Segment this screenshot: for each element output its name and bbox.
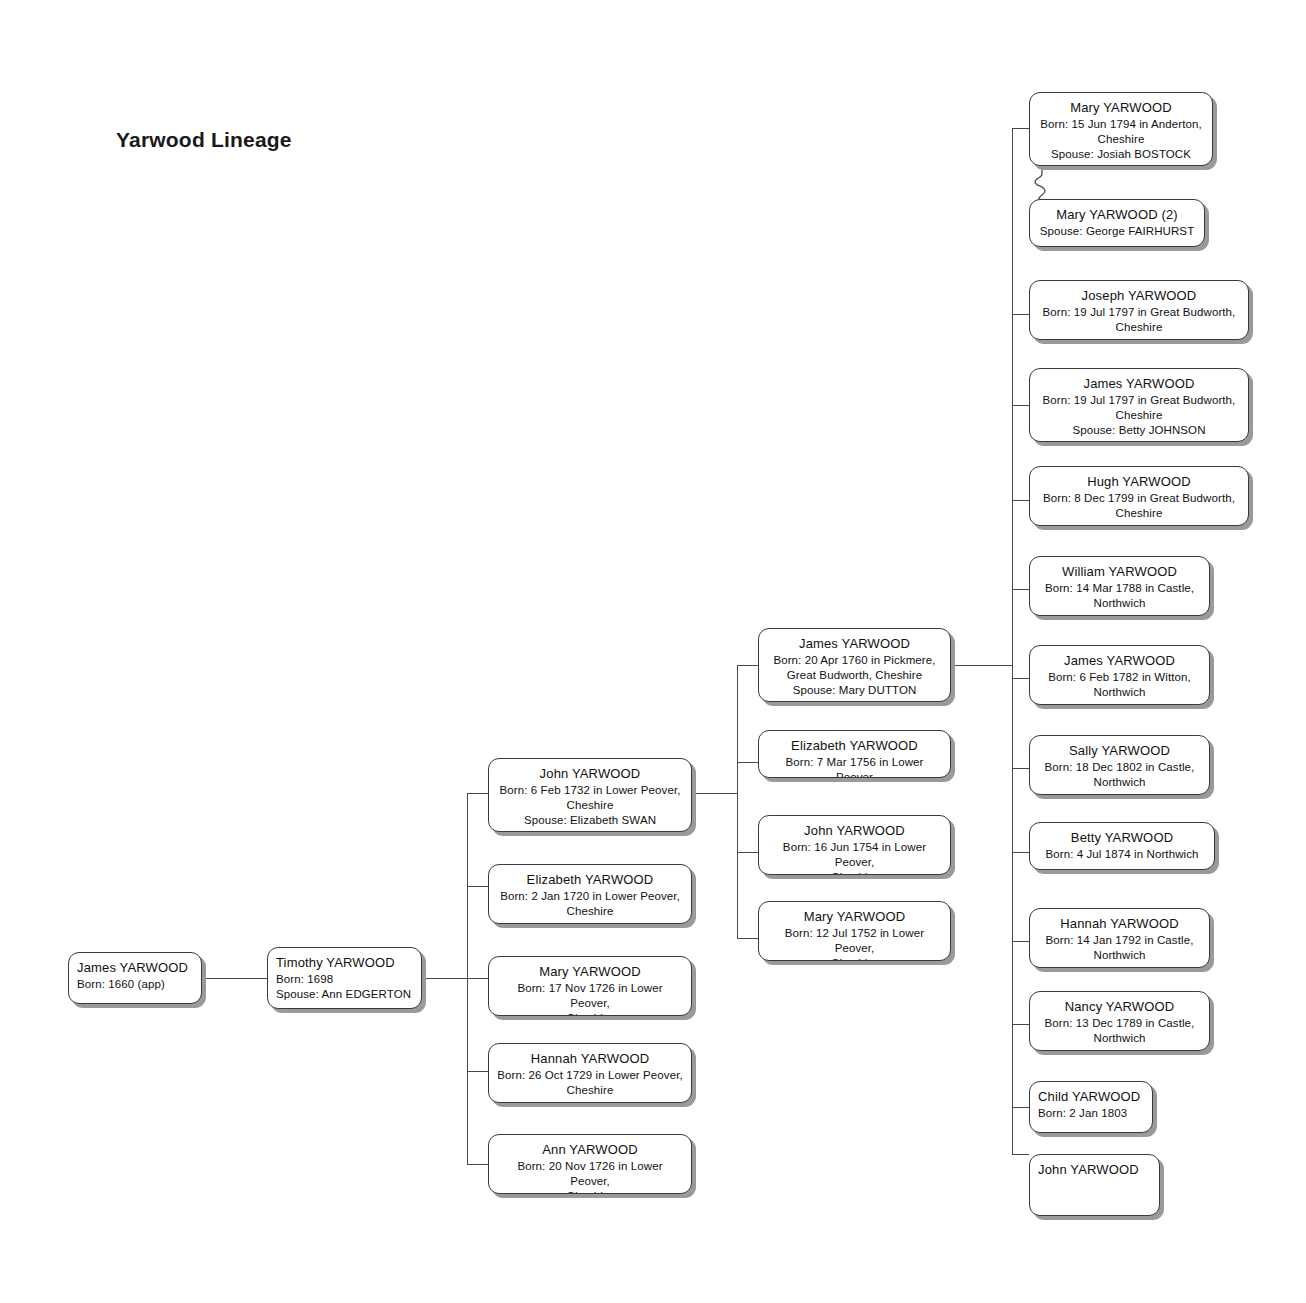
node-name: Timothy YARWOOD: [276, 954, 413, 972]
node-detail: Born: 1698: [276, 972, 413, 987]
node-name: Nancy YARWOOD: [1038, 998, 1201, 1016]
gen4-trunk: [737, 665, 738, 938]
stub-ann-1726: [467, 1164, 488, 1165]
stub-elizabeth-1756: [737, 762, 758, 763]
node-child-yarwood-1803[interactable]: Child YARWOOD Born: 2 Jan 1803: [1029, 1081, 1153, 1133]
stub-john-last: [1012, 1154, 1029, 1155]
node-detail: Northwich: [1038, 775, 1201, 790]
stub-john-1754: [737, 852, 758, 853]
node-detail: Born: 19 Jul 1797 in Great Budworth,: [1038, 305, 1240, 320]
node-name: Sally YARWOOD: [1038, 742, 1201, 760]
node-james-yarwood-1760[interactable]: James YARWOOD Born: 20 Apr 1760 in Pickm…: [758, 628, 951, 702]
connector-james1760-trunk: [951, 665, 1012, 666]
node-timothy-yarwood-1698[interactable]: Timothy YARWOOD Born: 1698 Spouse: Ann E…: [267, 947, 422, 1009]
node-name: John YARWOOD: [1038, 1161, 1151, 1179]
node-detail: Cheshire: [767, 870, 942, 875]
node-james-yarwood-1782[interactable]: James YARWOOD Born: 6 Feb 1782 in Witton…: [1029, 645, 1210, 705]
stub-sally-1802: [1012, 768, 1029, 769]
gen3-trunk: [467, 793, 468, 1165]
node-name: Betty YARWOOD: [1038, 829, 1206, 847]
stub-child-1803: [1012, 1107, 1029, 1108]
node-detail: Spouse: Betty JOHNSON: [1038, 423, 1240, 438]
node-detail: Born: 4 Jul 1874 in Northwich: [1038, 847, 1206, 862]
node-betty-yarwood-1874[interactable]: Betty YARWOOD Born: 4 Jul 1874 in Northw…: [1029, 822, 1215, 870]
node-elizabeth-yarwood-1756[interactable]: Elizabeth YARWOOD Born: 7 Mar 1756 in Lo…: [758, 730, 951, 778]
node-john-yarwood-1732[interactable]: John YARWOOD Born: 6 Feb 1732 in Lower P…: [488, 758, 692, 832]
node-name: Hugh YARWOOD: [1038, 473, 1240, 491]
node-john-yarwood-1754[interactable]: John YARWOOD Born: 16 Jun 1754 in Lower …: [758, 815, 951, 875]
node-name: Mary YARWOOD (2): [1038, 206, 1196, 224]
node-detail: Great Budworth, Cheshire: [767, 668, 942, 683]
node-mary-yarwood-1726[interactable]: Mary YARWOOD Born: 17 Nov 1726 in Lower …: [488, 956, 692, 1016]
node-detail: Cheshire: [497, 1189, 683, 1194]
node-detail: Born: 14 Mar 1788 in Castle,: [1038, 581, 1201, 596]
node-detail: Spouse: Josiah BOSTOCK: [1038, 147, 1204, 162]
node-detail: Cheshire: [767, 956, 942, 961]
stub-hannah-1729: [467, 1071, 488, 1072]
node-john-yarwood-last[interactable]: John YARWOOD: [1029, 1154, 1160, 1216]
node-sally-yarwood-1802[interactable]: Sally YARWOOD Born: 18 Dec 1802 in Castl…: [1029, 735, 1210, 795]
node-detail: Born: 14 Jan 1792 in Castle,: [1038, 933, 1201, 948]
stub-william-1788: [1012, 589, 1029, 590]
node-detail: Cheshire: [1038, 320, 1240, 335]
node-detail: Cheshire: [1038, 132, 1204, 147]
node-name: Child YARWOOD: [1038, 1088, 1144, 1106]
node-hugh-yarwood-1799[interactable]: Hugh YARWOOD Born: 8 Dec 1799 in Great B…: [1029, 466, 1249, 526]
node-detail: Born: 8 Dec 1799 in Great Budworth,: [1038, 491, 1240, 506]
node-name: Ann YARWOOD: [497, 1141, 683, 1159]
node-detail: Cheshire: [1038, 408, 1240, 423]
node-ann-yarwood-1726[interactable]: Ann YARWOOD Born: 20 Nov 1726 in Lower P…: [488, 1134, 692, 1194]
stub-john-1732: [467, 793, 488, 794]
node-detail: Spouse: Mary DUTTON: [767, 683, 942, 698]
node-hannah-yarwood-1729[interactable]: Hannah YARWOOD Born: 26 Oct 1729 in Lowe…: [488, 1043, 692, 1103]
family-tree-canvas: Yarwood Lineage James YARWOOD Born: 1660…: [0, 0, 1306, 1303]
node-hannah-yarwood-1792[interactable]: Hannah YARWOOD Born: 14 Jan 1792 in Cast…: [1029, 908, 1210, 968]
node-detail: Spouse: George FAIRHURST: [1038, 224, 1196, 239]
node-detail: Born: 1660 (app): [77, 977, 193, 992]
node-mary-yarwood-2[interactable]: Mary YARWOOD (2) Spouse: George FAIRHURS…: [1029, 199, 1205, 247]
node-elizabeth-yarwood-1720[interactable]: Elizabeth YARWOOD Born: 2 Jan 1720 in Lo…: [488, 864, 692, 924]
node-mary-yarwood-1752[interactable]: Mary YARWOOD Born: 12 Jul 1752 in Lower …: [758, 901, 951, 961]
stub-james-1797: [1012, 405, 1029, 406]
stub-mary-1752: [737, 938, 758, 939]
node-detail: Cheshire: [497, 1011, 683, 1016]
node-name: James YARWOOD: [77, 959, 193, 977]
node-name: Hannah YARWOOD: [1038, 915, 1201, 933]
stub-joseph-1797: [1012, 314, 1029, 315]
node-detail: Born: 7 Mar 1756 in Lower Peover: [767, 755, 942, 778]
node-name: James YARWOOD: [1038, 375, 1240, 393]
node-detail: Spouse: Elizabeth SWAN: [497, 813, 683, 828]
page-title: Yarwood Lineage: [116, 128, 292, 152]
node-detail: Northwich: [1038, 596, 1201, 611]
node-detail: Born: 16 Jun 1754 in Lower Peover,: [767, 840, 942, 870]
node-james-yarwood-1797[interactable]: James YARWOOD Born: 19 Jul 1797 in Great…: [1029, 368, 1249, 442]
node-joseph-yarwood-1797[interactable]: Joseph YARWOOD Born: 19 Jul 1797 in Grea…: [1029, 280, 1249, 340]
node-detail: Born: 20 Apr 1760 in Pickmere,: [767, 653, 942, 668]
connector-john1732-trunk: [692, 793, 737, 794]
duplicate-link-squiggle: [1032, 168, 1052, 202]
stub-betty-1874: [1012, 852, 1029, 853]
node-william-yarwood-1788[interactable]: William YARWOOD Born: 14 Mar 1788 in Cas…: [1029, 556, 1210, 616]
node-detail: Cheshire: [497, 798, 683, 813]
stub-mary-1794: [1012, 128, 1029, 129]
node-detail: Cheshire: [1038, 506, 1240, 521]
node-name: William YARWOOD: [1038, 563, 1201, 581]
node-detail: Born: 6 Feb 1732 in Lower Peover,: [497, 783, 683, 798]
node-name: Hannah YARWOOD: [497, 1050, 683, 1068]
node-mary-yarwood-1794[interactable]: Mary YARWOOD Born: 15 Jun 1794 in Andert…: [1029, 92, 1213, 166]
connector-timothy-trunk: [422, 978, 467, 979]
stub-mary-1726: [467, 978, 488, 979]
node-james-yarwood-1660[interactable]: James YARWOOD Born: 1660 (app): [68, 952, 202, 1004]
node-name: Elizabeth YARWOOD: [497, 871, 683, 889]
node-name: James YARWOOD: [767, 635, 942, 653]
node-detail: Born: 20 Nov 1726 in Lower Peover,: [497, 1159, 683, 1189]
node-nancy-yarwood-1789[interactable]: Nancy YARWOOD Born: 13 Dec 1789 in Castl…: [1029, 991, 1210, 1051]
node-detail: Born: 26 Oct 1729 in Lower Peover,: [497, 1068, 683, 1083]
stub-elizabeth-1720: [467, 886, 488, 887]
stub-hugh-1799: [1012, 500, 1029, 501]
node-detail: Born: 17 Nov 1726 in Lower Peover,: [497, 981, 683, 1011]
node-name: Joseph YARWOOD: [1038, 287, 1240, 305]
node-detail: Born: 2 Jan 1803: [1038, 1106, 1144, 1121]
node-detail: Born: 12 Jul 1752 in Lower Peover,: [767, 926, 942, 956]
node-detail: Born: 2 Jan 1720 in Lower Peover,: [497, 889, 683, 904]
